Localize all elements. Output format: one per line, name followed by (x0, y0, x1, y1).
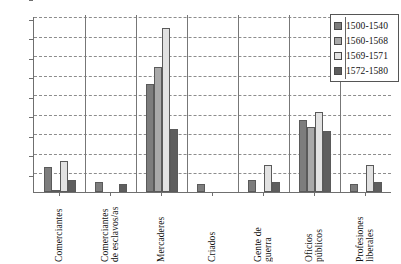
legend-item[interactable]: 1560-1568 (334, 33, 396, 48)
x-axis-tick-label: Gente de guerra (253, 196, 273, 264)
y-axis-tick-mark (29, 98, 33, 99)
bar[interactable] (315, 112, 323, 192)
bar-chart: 0102030405060708090 ComerciantesComercia… (0, 0, 401, 264)
bar[interactable] (68, 180, 76, 192)
bar[interactable] (248, 180, 256, 192)
x-axis-label-cell: Comerciantes (33, 196, 84, 264)
bar-group (34, 17, 85, 192)
x-axis-tick-label: Criados (207, 196, 217, 264)
x-axis-tick-label: Oficios públicos (304, 196, 324, 264)
y-axis-tick-mark (29, 78, 33, 79)
x-axis-label-cell: Gente de guerra (238, 196, 289, 264)
x-axis-labels: ComerciantesComerciantes de esclavos/asM… (33, 196, 391, 264)
x-axis-tick-label: Mercaderes (156, 196, 166, 264)
y-axis-tick-mark (29, 117, 33, 118)
bar-group (136, 17, 187, 192)
legend-swatch-icon (334, 37, 342, 45)
x-axis-tick-label: Comerciantes (54, 196, 64, 264)
bar[interactable] (366, 165, 374, 192)
bar-group (238, 17, 289, 192)
y-axis-tick-mark (29, 137, 33, 138)
y-axis-tick-mark (29, 39, 33, 40)
legend-item[interactable]: 1500-1540 (334, 18, 396, 33)
bar-group (85, 17, 136, 192)
bar[interactable] (299, 120, 307, 192)
bar[interactable] (95, 182, 103, 192)
y-axis-tick-mark (29, 0, 33, 1)
legend: 1500-1540 1560-1568 1569-1571 1572-1580 (330, 14, 399, 82)
y-axis-tick-mark (29, 20, 33, 21)
bar[interactable] (374, 182, 382, 192)
legend-item[interactable]: 1569-1571 (334, 48, 396, 63)
bar-group (187, 17, 238, 192)
bar[interactable] (323, 131, 331, 192)
x-axis-label-cell: Oficios públicos (289, 196, 340, 264)
x-axis-label-cell: Comerciantes de esclavos/as (84, 196, 135, 264)
legend-item-label: 1572-1580 (346, 66, 388, 76)
legend-item[interactable]: 1572-1580 (334, 63, 396, 78)
bar[interactable] (272, 182, 280, 192)
y-axis-tick-mark (29, 156, 33, 157)
y-axis-tick-mark (29, 176, 33, 177)
bar[interactable] (350, 184, 358, 192)
legend-swatch-icon (334, 52, 342, 60)
x-axis-tick-label: Comerciantes de esclavos/as (100, 196, 120, 264)
bar[interactable] (60, 161, 68, 192)
bar[interactable] (162, 28, 170, 192)
legend-swatch-icon (334, 22, 342, 30)
legend-divider (345, 17, 346, 79)
bar[interactable] (197, 184, 205, 192)
legend-item-label: 1500-1540 (346, 21, 388, 31)
x-axis-label-cell: Mercaderes (135, 196, 186, 264)
legend-swatch-icon (334, 67, 342, 75)
x-axis-label-cell: Profesiones liberales (340, 196, 391, 264)
x-axis-label-cell: Criados (186, 196, 237, 264)
x-axis-tick-label: Profesiones liberales (355, 196, 375, 264)
bar[interactable] (307, 127, 315, 192)
legend-item-label: 1569-1571 (346, 51, 388, 61)
bar[interactable] (170, 129, 178, 192)
bar[interactable] (264, 165, 272, 192)
bar[interactable] (146, 84, 154, 192)
y-axis-tick-mark (29, 59, 33, 60)
legend-item-label: 1560-1568 (346, 36, 388, 46)
bar[interactable] (154, 67, 162, 192)
bar[interactable] (44, 167, 52, 192)
bar[interactable] (119, 184, 127, 192)
